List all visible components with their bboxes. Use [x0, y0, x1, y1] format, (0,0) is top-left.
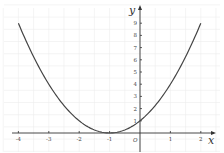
x-tick-label: -3 — [46, 136, 52, 142]
x-axis-label: x — [208, 134, 215, 147]
x-tick-label: -4 — [16, 136, 22, 142]
y-tick-label: 5 — [134, 69, 138, 75]
y-tick-label: 7 — [134, 45, 138, 51]
y-tick-label: 3 — [134, 93, 138, 99]
origin-label: O — [133, 137, 138, 143]
y-tick-label: 8 — [134, 32, 138, 38]
x-tick-label: 2 — [199, 136, 203, 142]
x-tick-label: -2 — [77, 136, 82, 142]
y-ticks: 123456789 — [134, 20, 143, 124]
y-tick-label: 2 — [134, 106, 138, 112]
chart: -4-3-2-112 123456789 x y O — [0, 0, 224, 153]
y-axis-label: y — [128, 4, 136, 17]
y-axis-arrow-icon — [138, 5, 142, 10]
y-tick-label: 9 — [134, 20, 138, 26]
y-tick-label: 4 — [134, 81, 138, 87]
x-tick-label: 1 — [169, 136, 173, 142]
x-tick-label: -1 — [107, 136, 112, 142]
y-tick-label: 6 — [134, 57, 138, 63]
grid — [3, 5, 220, 152]
